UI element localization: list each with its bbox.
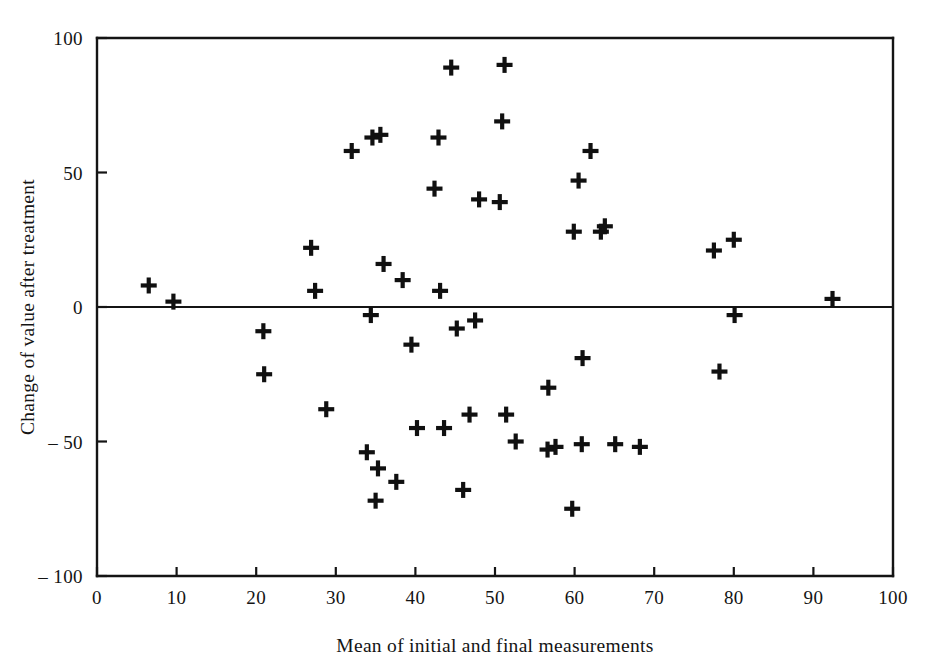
data-point xyxy=(363,307,379,323)
data-point xyxy=(372,127,388,143)
x-tick-label-90: 90 xyxy=(803,587,823,608)
data-point xyxy=(706,243,722,259)
data-point xyxy=(571,173,587,189)
data-point xyxy=(508,434,524,450)
x-tick-label-50: 50 xyxy=(485,587,505,608)
data-point xyxy=(540,380,556,396)
data-point xyxy=(409,420,425,436)
data-point xyxy=(726,232,742,248)
data-point xyxy=(711,364,727,380)
data-point xyxy=(255,323,271,339)
data-point xyxy=(395,272,411,288)
data-point xyxy=(498,407,514,423)
data-point xyxy=(436,420,452,436)
y-tick-label--50: – 50 xyxy=(47,432,83,453)
data-point xyxy=(566,224,582,240)
data-point xyxy=(427,181,443,197)
x-tick-label-30: 30 xyxy=(326,587,346,608)
data-point xyxy=(492,194,508,210)
data-point xyxy=(455,482,471,498)
data-point-layer xyxy=(141,57,841,517)
x-tick-label-10: 10 xyxy=(167,587,187,608)
y-tick-label-50: 50 xyxy=(63,163,83,184)
x-tick-label-60: 60 xyxy=(565,587,585,608)
data-point xyxy=(825,291,841,307)
data-point xyxy=(471,191,487,207)
x-tick-label-20: 20 xyxy=(246,587,266,608)
data-point xyxy=(574,436,590,452)
data-point xyxy=(443,60,459,76)
x-axis-title: Mean of initial and final measurements xyxy=(336,635,653,656)
data-point xyxy=(575,350,591,366)
y-axis-title: Change of value after treatment xyxy=(17,179,38,435)
data-point xyxy=(344,143,360,159)
y-tick-labels: – 100– 50050100 xyxy=(37,28,83,587)
data-point xyxy=(141,277,157,293)
data-point xyxy=(359,444,375,460)
x-tick-label-100: 100 xyxy=(878,587,908,608)
data-point xyxy=(376,256,392,272)
data-point xyxy=(607,436,623,452)
data-point xyxy=(449,321,465,337)
y-tick-label--100: – 100 xyxy=(37,566,83,587)
y-tick-label-0: 0 xyxy=(73,297,83,318)
data-point xyxy=(497,57,513,73)
data-point xyxy=(307,283,323,299)
data-point xyxy=(632,439,648,455)
x-tick-label-70: 70 xyxy=(644,587,664,608)
data-point xyxy=(462,407,478,423)
data-point xyxy=(430,130,446,146)
data-point xyxy=(303,240,319,256)
scatter-plot-figure: 0102030405060708090100 – 100– 50050100 M… xyxy=(0,0,949,670)
data-point xyxy=(318,401,334,417)
data-point xyxy=(256,366,272,382)
data-point xyxy=(564,501,580,517)
data-point xyxy=(364,130,380,146)
data-point xyxy=(467,312,483,328)
data-point xyxy=(547,439,563,455)
data-point xyxy=(583,143,599,159)
x-tick-label-80: 80 xyxy=(724,587,744,608)
data-point xyxy=(370,460,386,476)
data-point xyxy=(388,474,404,490)
x-tick-label-40: 40 xyxy=(405,587,425,608)
data-point xyxy=(432,283,448,299)
plot-canvas: 0102030405060708090100 – 100– 50050100 M… xyxy=(0,0,949,670)
data-point xyxy=(540,442,556,458)
data-point xyxy=(368,493,384,509)
data-point xyxy=(727,307,743,323)
x-tick-labels: 0102030405060708090100 xyxy=(92,587,908,608)
x-tick-label-0: 0 xyxy=(92,587,102,608)
data-point xyxy=(403,337,419,353)
data-point xyxy=(494,113,510,129)
y-tick-label-100: 100 xyxy=(53,28,83,49)
